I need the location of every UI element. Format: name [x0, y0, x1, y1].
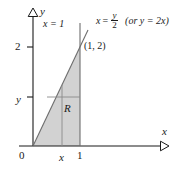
- y-axis-arrowhead-icon: [28, 8, 38, 17]
- curve-label-lhs: x: [96, 16, 100, 26]
- y-axis-label: y: [40, 6, 45, 17]
- vertical-line-label: x = 1: [43, 19, 64, 29]
- fraction-numerator: y: [112, 11, 118, 20]
- x-tick-label-x: x: [59, 152, 64, 163]
- x-tick-label-1: 1: [77, 150, 83, 161]
- x-tick-label-0: 0: [19, 150, 25, 161]
- y-tick-label-2: 2: [15, 41, 21, 52]
- math-figure: y x 2 y 0 x 1 x = 1 (1, 2) R x = y 2 (or…: [0, 0, 179, 173]
- curve-label-fraction: y 2: [111, 11, 118, 30]
- y-tick-label-y: y: [16, 94, 21, 105]
- curve-label-equals: =: [102, 16, 108, 26]
- region-label: R: [64, 103, 71, 114]
- fraction-denominator: 2: [111, 21, 118, 30]
- x-axis-label: x: [162, 126, 167, 137]
- curve-label-alternate: (or y = 2x): [125, 16, 169, 26]
- x-axis-arrowhead-icon: [161, 141, 170, 151]
- point-label: (1, 2): [84, 41, 106, 51]
- curve-label: x = y 2 (or y = 2x): [96, 11, 169, 30]
